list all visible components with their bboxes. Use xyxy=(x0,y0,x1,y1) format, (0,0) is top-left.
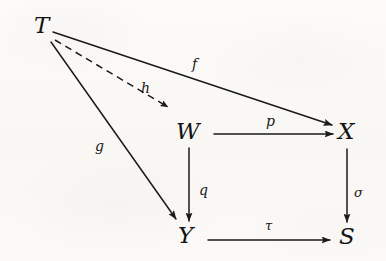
edge-label-sigma: σ xyxy=(354,186,363,199)
node-W: W xyxy=(176,120,200,143)
edge-label-f: f xyxy=(192,57,197,71)
node-Y: Y xyxy=(178,224,193,247)
node-T: T xyxy=(34,14,49,37)
edge-label-tau: τ xyxy=(265,219,272,232)
edge-h-arrow xyxy=(55,40,168,107)
commutative-diagram: T W X Y S f h g p q σ τ xyxy=(0,0,386,261)
node-X: X xyxy=(338,120,354,143)
edge-g-arrow xyxy=(51,42,176,219)
edge-label-g: g xyxy=(95,139,104,153)
edge-label-p: p xyxy=(266,114,275,128)
node-S: S xyxy=(339,225,355,248)
edge-label-q: q xyxy=(199,183,208,197)
edge-f-arrow xyxy=(53,32,332,125)
edge-label-h: h xyxy=(141,81,150,95)
